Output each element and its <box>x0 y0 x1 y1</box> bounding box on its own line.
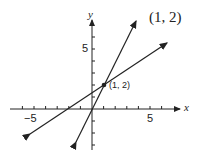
title-label: (1, 2) <box>149 9 182 26</box>
y-axis-label: y <box>88 8 93 20</box>
x-axis-label: x <box>184 101 189 113</box>
intersection-point <box>102 83 107 88</box>
x-tick-label-5: 5 <box>147 112 153 124</box>
y-tick-label-5: 5 <box>82 42 88 54</box>
point-label: (1, 2) <box>109 80 130 90</box>
x-tick-label-neg5: −5 <box>24 112 37 124</box>
